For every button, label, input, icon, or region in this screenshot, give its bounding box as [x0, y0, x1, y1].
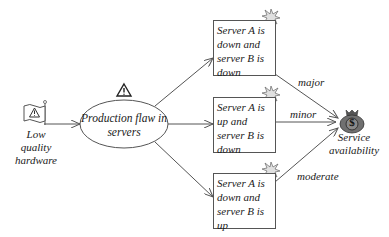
edge-hazard-to-scenario-2 — [155, 142, 213, 197]
edge-label-major: major — [298, 76, 324, 88]
edge-label-minor: minor — [290, 108, 316, 120]
money-bag-glyph: $ — [347, 116, 357, 129]
scenario-node-0[interactable]: Server A is down and server B is down — [213, 20, 276, 76]
hazard-node-label: Production flaw in servers — [80, 111, 168, 139]
target-node-label[interactable]: Service availability — [324, 131, 384, 157]
edge-label-moderate: moderate — [297, 170, 339, 182]
source-node-label[interactable]: Low quality hardware — [12, 128, 60, 167]
scenario-node-2[interactable]: Server A is down and server B is up — [213, 173, 276, 229]
warning-triangle-icon — [117, 84, 131, 96]
warning-flag-icon — [24, 101, 47, 126]
edge-hazard-to-scenario-0 — [155, 58, 213, 106]
diagram-canvas — [0, 0, 389, 237]
scenario-node-1[interactable]: Server A is up and server B is down — [213, 97, 276, 153]
